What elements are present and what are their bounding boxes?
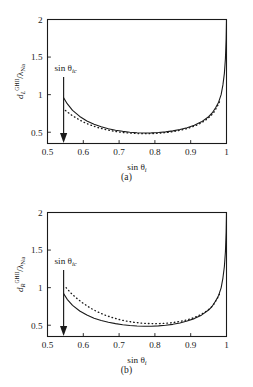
panel-a-caption: (a) <box>0 172 253 182</box>
axes-frame <box>48 213 227 337</box>
y-tick-label: 1 <box>38 283 43 293</box>
y-tick-label: 1.5 <box>31 52 43 62</box>
curve-dotted <box>66 288 220 324</box>
x-tick-label: 1 <box>224 340 229 350</box>
plot-area <box>64 20 227 134</box>
x-tick-label: 0.6 <box>78 147 90 157</box>
y-axis-title: dRGHII/λNa <box>14 257 26 292</box>
y-tick-label: 1 <box>38 90 43 100</box>
y-tick-label: 0.5 <box>31 128 43 138</box>
figure-container: 0.50.60.70.80.910.511.52sin θidLGHII/λNa… <box>0 0 253 387</box>
curve-solid <box>64 213 227 327</box>
curve-solid <box>64 20 227 133</box>
critical-angle-label: sin θic <box>55 256 77 267</box>
plot-area <box>64 213 227 327</box>
critical-angle-arrow-head <box>60 326 67 336</box>
panel-b-caption: (b) <box>0 365 253 375</box>
x-tick-label: 0.9 <box>185 147 197 157</box>
x-tick-label: 0.8 <box>149 340 161 350</box>
x-tick-label: 0.8 <box>149 147 161 157</box>
plot-b: 0.50.60.70.80.910.511.52sin θidRGHII/λNa… <box>0 193 253 386</box>
x-tick-label: 0.5 <box>42 147 54 157</box>
x-tick-label: 1 <box>224 147 229 157</box>
y-tick-label: 2 <box>38 15 43 25</box>
svg-text:dRGHII/λNa: dRGHII/λNa <box>14 257 26 292</box>
critical-angle-label: sin θic <box>55 63 77 74</box>
panel-a: 0.50.60.70.80.910.511.52sin θidLGHII/λNa… <box>0 0 253 193</box>
curve-dotted <box>65 100 220 134</box>
critical-angle-arrow-head <box>60 133 67 143</box>
axes-frame <box>48 20 227 144</box>
y-tick-label: 1.5 <box>31 245 43 255</box>
x-tick-label: 0.7 <box>113 147 125 157</box>
y-tick-label: 0.5 <box>31 321 43 331</box>
y-axis-title: dLGHII/λNa <box>14 64 26 99</box>
x-tick-label: 0.5 <box>42 340 54 350</box>
y-tick-label: 2 <box>38 208 43 218</box>
x-tick-label: 0.6 <box>78 340 90 350</box>
x-tick-label: 0.7 <box>113 340 125 350</box>
plot-a: 0.50.60.70.80.910.511.52sin θidLGHII/λNa… <box>0 0 253 193</box>
svg-text:dLGHII/λNa: dLGHII/λNa <box>14 64 26 99</box>
x-tick-label: 0.9 <box>185 340 197 350</box>
panel-b: 0.50.60.70.80.910.511.52sin θidRGHII/λNa… <box>0 193 253 386</box>
